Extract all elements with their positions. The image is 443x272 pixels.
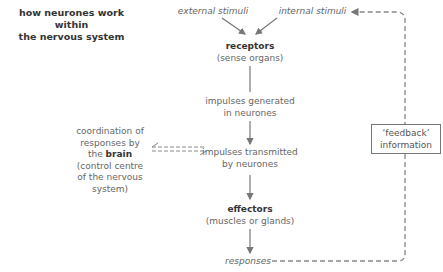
feedback-line1: ‘feedback’ — [372, 127, 440, 139]
effectors-node: effectors (muscles or glands) — [195, 203, 305, 227]
impulses-transmitted-line1: impulses transmitted — [195, 146, 305, 158]
feedback-information-box: ‘feedback’ information — [371, 124, 441, 154]
brain-coordination-node: coordination of responses by the brain (… — [70, 126, 150, 195]
impulses-generated-line2: in neurones — [195, 107, 305, 119]
receptors-node: receptors (sense organs) — [200, 40, 300, 64]
impulses-transmitted-line2: by neurones — [195, 158, 305, 170]
receptors-sub: (sense organs) — [200, 52, 300, 64]
impulses-generated-line1: impulses generated — [195, 95, 305, 107]
effectors-sub: (muscles or glands) — [195, 215, 305, 227]
brain-line5: of the nervous — [70, 172, 150, 184]
brain-line2: responses by — [70, 138, 150, 150]
external-stimuli-label: external stimuli — [168, 5, 258, 17]
brain-line4: (control centre — [70, 161, 150, 173]
internal-stimuli-label: internal stimuli — [275, 5, 350, 17]
brain-line3-prefix: the — [88, 149, 106, 159]
brain-line1: coordination of — [70, 126, 150, 138]
impulses-transmitted-node: impulses transmitted by neurones — [195, 146, 305, 170]
feedback-line2: information — [372, 139, 440, 151]
brain-line6: system) — [70, 184, 150, 196]
brain-bold: brain — [106, 149, 132, 159]
responses-label: responses — [222, 255, 274, 267]
receptors-label: receptors — [226, 41, 275, 51]
impulses-generated-node: impulses generated in neurones — [195, 95, 305, 119]
effectors-label: effectors — [227, 204, 272, 214]
